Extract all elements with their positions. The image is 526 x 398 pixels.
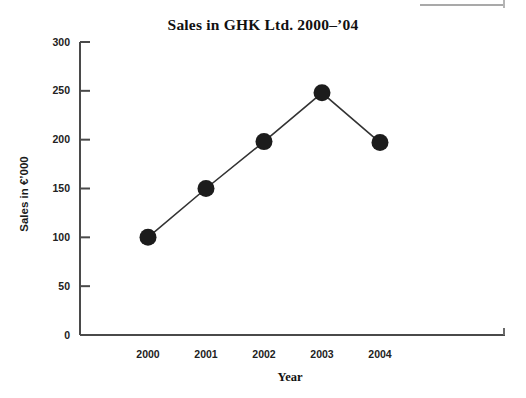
series-markers-sales xyxy=(140,84,389,246)
data-point-2004[interactable] xyxy=(372,134,389,151)
series-line-sales xyxy=(148,93,380,238)
data-point-2002[interactable] xyxy=(256,133,273,150)
plot-area xyxy=(0,0,526,398)
chart-figure: Sales in GHK Ltd. 2000–’04 Sales in €’00… xyxy=(0,0,526,398)
data-point-2000[interactable] xyxy=(140,229,157,246)
data-point-2003[interactable] xyxy=(314,84,331,101)
data-polyline xyxy=(148,93,380,238)
y-axis-ticks xyxy=(80,42,90,335)
data-point-2001[interactable] xyxy=(198,180,215,197)
